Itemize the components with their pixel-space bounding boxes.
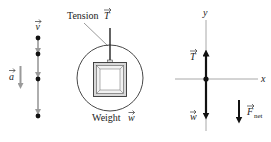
position-dot [36, 114, 41, 119]
tension-symbol: T [104, 10, 111, 21]
position-dot [36, 36, 41, 41]
weight-symbol: w [128, 112, 135, 123]
tension-vector-label: T [190, 51, 197, 62]
weight-label: Weight [92, 112, 121, 123]
free-body-diagram: y x T w F net [175, 7, 266, 131]
tension-leader-line [84, 23, 108, 46]
weight-vector-label: w [190, 111, 197, 122]
tension-label: Tension [67, 10, 99, 21]
pictorial-representation: Tension T Weight w [67, 8, 143, 123]
y-axis-label: y [202, 7, 208, 18]
net-force-subscript: net [254, 112, 263, 120]
x-axis-label: x [260, 73, 266, 84]
diagram-canvas: v a Tension T [0, 0, 271, 142]
motion-diagram: v a [9, 20, 41, 119]
hanging-box [94, 63, 127, 97]
position-dot [36, 77, 41, 82]
position-dot [36, 52, 41, 57]
particle-dot [203, 76, 208, 81]
